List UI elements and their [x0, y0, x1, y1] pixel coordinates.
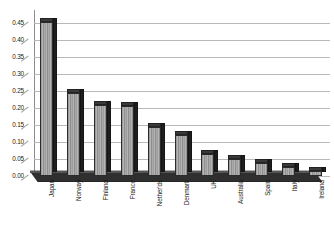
- x-axis-tick-label: Denmark: [184, 180, 190, 205]
- y-axis: 0.000.050.100.150.200.250.300.350.400.45: [0, 0, 24, 236]
- bar[interactable]: [40, 18, 53, 176]
- x-axis-tick-label: Italy: [292, 180, 298, 191]
- bar[interactable]: [67, 89, 80, 176]
- x-axis-tick-label: UK: [211, 180, 217, 189]
- bar-side-face: [268, 159, 272, 172]
- bar[interactable]: [201, 150, 214, 176]
- bar[interactable]: [228, 155, 241, 176]
- bar-side-face: [188, 131, 192, 172]
- x-axis-tick-label: Japan: [49, 180, 55, 197]
- bar[interactable]: [309, 167, 322, 176]
- bar[interactable]: [94, 101, 107, 176]
- bar-side-face: [80, 89, 84, 172]
- bar-front-face: [148, 127, 161, 176]
- x-axis-tick-label: France: [130, 180, 136, 199]
- bar-front-face: [228, 159, 241, 176]
- bar-side-face: [53, 18, 57, 172]
- x-axis-tick-label: Finland: [103, 180, 109, 200]
- bar-side-face: [322, 167, 326, 172]
- bar-chart: 0.000.050.100.150.200.250.300.350.400.45…: [0, 0, 334, 236]
- bar-front-face: [40, 22, 53, 176]
- bar-front-face: [309, 171, 322, 176]
- bar-side-face: [295, 163, 299, 172]
- x-axis: JapanNorwayFinlandFranceNether'dsDenmark…: [34, 180, 330, 236]
- bar-side-face: [214, 150, 218, 172]
- x-axis-tick-label: Spain: [265, 180, 271, 196]
- x-axis-tick-label: Ireland: [319, 180, 325, 199]
- bar[interactable]: [148, 123, 161, 176]
- bar[interactable]: [282, 163, 295, 176]
- x-axis-tick-label: Australia: [238, 180, 244, 204]
- bar-side-face: [107, 101, 111, 172]
- gridline: [34, 176, 330, 177]
- x-axis-tick-label: Nether'ds: [157, 180, 163, 206]
- bar-front-face: [94, 105, 107, 176]
- bar[interactable]: [255, 159, 268, 176]
- bar-front-face: [282, 167, 295, 176]
- bar-front-face: [121, 106, 134, 176]
- bar-side-face: [241, 155, 245, 172]
- bar-front-face: [175, 135, 188, 176]
- bar-side-face: [134, 102, 138, 172]
- bar-front-face: [67, 93, 80, 176]
- x-axis-tick-label: Norway: [76, 180, 82, 201]
- bar-side-face: [161, 123, 165, 172]
- bar[interactable]: [121, 102, 134, 176]
- bar-front-face: [201, 154, 214, 176]
- bar-front-face: [255, 163, 268, 176]
- bar[interactable]: [175, 131, 188, 176]
- bars-layer: [34, 14, 330, 176]
